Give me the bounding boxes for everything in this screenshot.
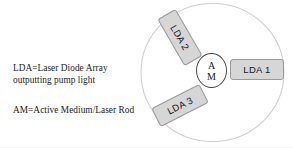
legend-lda-definition: LDA=Laser Diode Array outputting pump li…	[13, 63, 108, 87]
legend-am-line-1: AM=Active Medium/Laser Rod	[13, 105, 134, 117]
legend-am-definition: AM=Active Medium/Laser Rod	[13, 105, 134, 117]
figure-bottom-rule	[0, 147, 293, 148]
active-medium-label-m: M	[207, 71, 216, 82]
laser-pump-diagram-figure: LDA=Laser Diode Array outputting pump li…	[0, 0, 293, 148]
lda-1-block: LDA 1	[230, 59, 284, 80]
legend-lda-line-2: outputting pump light	[13, 75, 108, 87]
lda-1-label: LDA 1	[243, 64, 270, 75]
active-medium-label-a: A	[208, 60, 215, 71]
active-medium-ellipse: A M	[196, 53, 227, 88]
legend-lda-line-1: LDA=Laser Diode Array	[13, 63, 108, 75]
